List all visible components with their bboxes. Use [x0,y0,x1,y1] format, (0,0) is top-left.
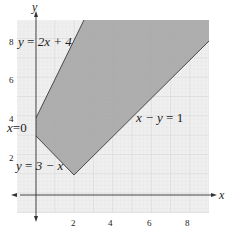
x-axis-arrow-left-icon [11,193,17,197]
y-tick-6: 6 [9,75,14,85]
label-x-equals-0: x=0 [6,120,27,135]
graph: x y 2 4 6 8 2 4 6 8 y = 2x + 4 x=0 y = 3… [0,0,230,233]
y-tick-2: 2 [9,153,14,163]
y-tick-8: 8 [9,37,14,47]
x-tick-6: 6 [147,218,152,228]
y-axis-label: y [31,0,38,14]
y-axis-arrow-down-icon [34,216,38,222]
x-axis-arrow-right-icon [211,193,217,197]
label-x-minus-y-1: x − y = 1 [135,110,183,125]
x-tick-2: 2 [71,218,76,228]
x-axis-label: x [218,188,225,202]
x-tick-4: 4 [108,218,113,228]
label-y-2x-plus-4: y = 2x + 4 [16,34,72,49]
x-tick-8: 8 [185,218,190,228]
label-y-3-minus-x: y = 3 − x [14,158,63,173]
